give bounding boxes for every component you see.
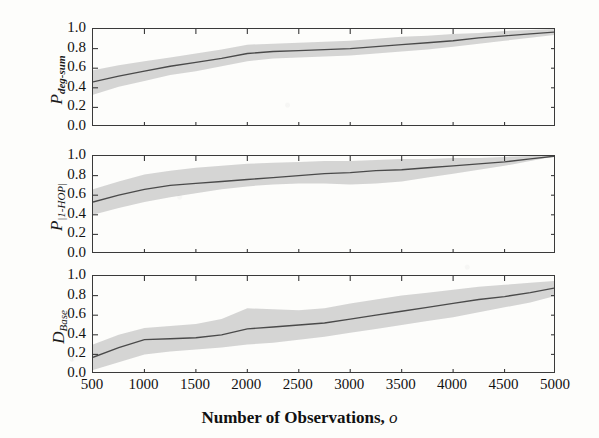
panel-1-ytick-label: 0.0 (46, 244, 86, 261)
panel-2-ytick-label: 0.8 (46, 286, 86, 303)
panel-2-ytick-label: 0.2 (46, 344, 86, 361)
panel-2-confidence-band (93, 281, 555, 370)
panel-0-plot-area (92, 28, 555, 126)
panel-2-xtick-label: 3500 (376, 376, 426, 393)
panel-1-plot-area (92, 155, 555, 253)
panel-1-svg (93, 156, 555, 253)
panel-2-ytick-label: 0.4 (46, 325, 86, 342)
panel-2-xtick-label: 4000 (427, 376, 477, 393)
panel-2-xtick-label: 500 (67, 376, 117, 393)
panel-1-ytick-label: 0.4 (46, 205, 86, 222)
panel-0-ytick-label: 0.6 (46, 58, 86, 75)
panel-1-ytick-label: 1.0 (46, 146, 86, 163)
panel-0-confidence-band (93, 29, 555, 95)
panel-1-ytick-label: 0.6 (46, 185, 86, 202)
panel-0-ytick-label: 0.8 (46, 39, 86, 56)
panel-2-xtick-label: 4500 (479, 376, 529, 393)
panel-1-confidence-band (93, 156, 555, 215)
panel-2-plot-area (92, 275, 555, 373)
panel-2-ytick-label: 0.6 (46, 305, 86, 322)
panel-2-xtick-label: 5000 (530, 376, 580, 393)
figure-root: Pdeg-sum 0.00.20.40.60.81.0 P|1-HOP| 0.0… (0, 0, 599, 438)
panel-0-ytick-label: 0.0 (46, 117, 86, 134)
panel-1-ytick-label: 0.2 (46, 224, 86, 241)
panel-2-xtick-label: 3000 (324, 376, 374, 393)
panel-0-ytick-label: 0.4 (46, 78, 86, 95)
panel-2-svg (93, 276, 555, 373)
x-axis-label: Number of Observations, o (0, 408, 599, 428)
x-axis-label-variable: o (389, 408, 398, 427)
panel-2-xtick-label: 1000 (118, 376, 168, 393)
panel-0-svg (93, 29, 555, 126)
panel-2-xtick-label: 2000 (221, 376, 271, 393)
panel-0-ytick-label: 0.2 (46, 97, 86, 114)
panel-1-ytick-label: 0.8 (46, 166, 86, 183)
panel-2-xtick-label: 2500 (273, 376, 323, 393)
panel-0-ytick-label: 1.0 (46, 19, 86, 36)
panel-2-xtick-label: 1500 (170, 376, 220, 393)
panel-2-ytick-label: 1.0 (46, 266, 86, 283)
x-axis-label-text: Number of Observations, (201, 408, 384, 427)
